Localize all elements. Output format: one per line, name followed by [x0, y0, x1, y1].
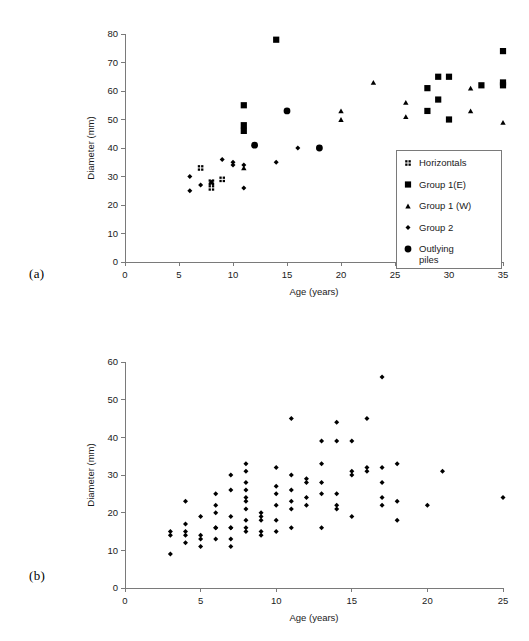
data-point	[183, 533, 188, 538]
data-point	[304, 495, 309, 500]
data-point	[403, 114, 408, 119]
data-point	[228, 525, 233, 530]
data-point	[435, 74, 441, 80]
y-tick-label-60: 60	[107, 356, 118, 367]
data-point	[338, 109, 343, 114]
data-point	[243, 461, 248, 466]
data-point	[289, 416, 294, 421]
data-point	[198, 514, 203, 519]
data-point	[364, 416, 369, 421]
data-point	[213, 510, 218, 515]
data-point	[380, 495, 385, 500]
data-point	[198, 544, 203, 549]
data-point	[349, 439, 354, 444]
y-tick-label-40: 40	[107, 432, 118, 443]
data-point	[243, 488, 248, 493]
y-tick-label-60: 60	[107, 85, 118, 96]
data-point	[334, 506, 339, 511]
data-point	[501, 495, 506, 500]
data-point	[274, 491, 279, 496]
data-point	[295, 146, 300, 151]
data-point	[183, 521, 188, 526]
data-point	[243, 506, 248, 511]
x-tick-label-30: 30	[444, 269, 455, 280]
panel-a: (a) 0102030405060708005101520253035Age (…	[0, 0, 529, 320]
data-point	[228, 488, 233, 493]
data-point	[243, 480, 248, 485]
series-horizontals	[198, 165, 225, 191]
legend-label: Group 1 (W)	[419, 200, 471, 211]
y-tick-label-10: 10	[107, 228, 118, 239]
y-tick-label-0: 0	[113, 582, 118, 593]
data-point	[168, 552, 173, 557]
data-point	[228, 544, 233, 549]
series-group-1-e-	[241, 37, 506, 134]
data-point	[289, 525, 294, 530]
data-point	[468, 109, 473, 114]
data-point	[435, 96, 441, 102]
data-point	[213, 537, 218, 542]
data-point	[334, 420, 339, 425]
data-point	[380, 480, 385, 485]
data-point	[425, 503, 430, 508]
data-point	[395, 499, 400, 504]
data-point	[274, 518, 279, 523]
data-point	[446, 116, 452, 122]
data-point	[380, 465, 385, 470]
data-point	[187, 188, 192, 193]
data-point	[395, 461, 400, 466]
data-point	[468, 86, 473, 91]
legend-label: Outlying	[419, 243, 454, 254]
data-point	[289, 488, 294, 493]
data-point	[338, 117, 343, 122]
data-point	[395, 518, 400, 523]
data-point	[241, 122, 247, 128]
data-point	[316, 145, 323, 152]
y-tick-label-30: 30	[107, 171, 118, 182]
data-point	[241, 185, 246, 190]
data-point	[334, 439, 339, 444]
x-tick-label-20: 20	[336, 269, 347, 280]
data-point	[168, 533, 173, 538]
data-point	[243, 499, 248, 504]
data-point	[319, 491, 324, 496]
y-axis-title: Diameter (mm)	[85, 116, 96, 179]
legend-marker	[405, 181, 411, 187]
legend-label: Group 2	[419, 222, 453, 233]
data-point	[241, 128, 247, 134]
x-tick-label-5: 5	[198, 595, 203, 606]
data-point	[304, 503, 309, 508]
data-point	[243, 518, 248, 523]
legend-marker	[405, 246, 412, 253]
data-point	[274, 160, 279, 165]
data-point	[243, 469, 248, 474]
figure-root: (a) 0102030405060708005101520253035Age (…	[0, 0, 529, 641]
y-tick-label-0: 0	[113, 256, 118, 267]
panel-a-plot: 0102030405060708005101520253035Age (year…	[0, 0, 529, 320]
data-point	[289, 473, 294, 478]
data-point	[198, 183, 203, 188]
data-point	[241, 163, 246, 168]
data-point	[500, 48, 506, 54]
data-point	[220, 157, 225, 162]
data-point	[289, 499, 294, 504]
data-point	[380, 375, 385, 380]
data-point	[273, 37, 279, 43]
data-point	[274, 465, 279, 470]
x-tick-label-10: 10	[228, 269, 239, 280]
y-tick-label-20: 20	[107, 199, 118, 210]
data-point	[187, 174, 192, 179]
data-point	[284, 108, 291, 115]
data-point	[274, 484, 279, 489]
data-point	[213, 525, 218, 530]
panel-b-plot: 01020304050600510152025Age (years)Diamet…	[0, 320, 529, 641]
data-point	[219, 177, 225, 183]
x-tick-label-10: 10	[271, 595, 282, 606]
data-point	[213, 503, 218, 508]
data-point	[183, 499, 188, 504]
data-point	[319, 461, 324, 466]
x-tick-label-5: 5	[176, 269, 181, 280]
legend-label: piles	[419, 254, 439, 265]
data-point	[319, 525, 324, 530]
data-point	[243, 529, 248, 534]
